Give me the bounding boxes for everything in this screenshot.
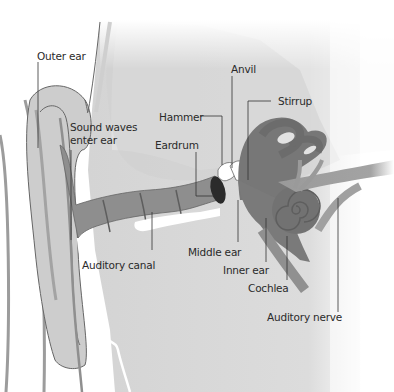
label-auditory-canal: Auditory canal — [82, 259, 155, 271]
label-hammer: Hammer — [159, 111, 203, 123]
label-enter-ear: enter ear — [70, 134, 117, 146]
label-middle-ear: Middle ear — [188, 246, 241, 258]
ear-anatomy-diagram: Outer ear Sound waves enter ear Anvil St… — [0, 0, 394, 392]
label-auditory-nerve: Auditory nerve — [267, 311, 342, 323]
label-eardrum: Eardrum — [155, 139, 199, 151]
label-outer-ear: Outer ear — [37, 50, 86, 62]
label-sound-waves: Sound waves — [70, 121, 137, 133]
label-stirrup: Stirrup — [278, 95, 312, 107]
label-anvil: Anvil — [231, 63, 256, 75]
label-cochlea: Cochlea — [248, 282, 289, 294]
label-inner-ear: Inner ear — [223, 264, 269, 276]
